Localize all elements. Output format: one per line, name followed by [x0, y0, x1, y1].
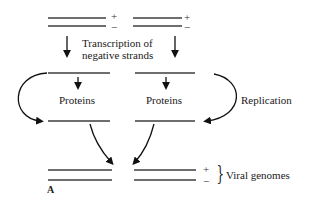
- proteins-left-label: Proteins: [59, 94, 95, 106]
- top-mid-plus-sign: +: [111, 11, 117, 21]
- replication-label: Replication: [241, 94, 292, 106]
- panel-letter: A: [47, 184, 54, 196]
- viral-genome-left: [48, 170, 112, 180]
- converge-arrow-left-icon: [90, 124, 111, 162]
- viral-genome-right: [134, 170, 196, 180]
- replication-curve-right-icon: [207, 74, 236, 121]
- transcription-label-line1: Transcription of: [82, 37, 153, 49]
- top-mid-minus-sign: −: [111, 22, 117, 32]
- top-right-dsrna: [133, 18, 182, 26]
- bottom-plus-sign: +: [203, 164, 209, 174]
- brace-icon: }: [217, 163, 225, 183]
- viral-genomes-label: Viral genomes: [226, 169, 290, 181]
- top-right-minus-sign: −: [184, 22, 190, 32]
- converge-arrow-right-icon: [135, 124, 154, 162]
- bottom-minus-sign: −: [203, 176, 209, 186]
- top-left-dsrna: [48, 18, 106, 26]
- proteins-right-label: Proteins: [146, 94, 182, 106]
- transcription-label-line2: negative strands: [82, 49, 153, 61]
- replication-curve-left-icon: [18, 73, 47, 121]
